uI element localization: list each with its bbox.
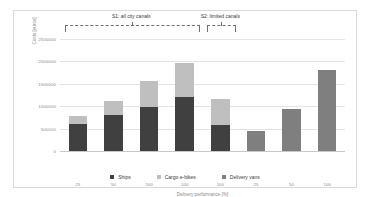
x-axis-title: Delivery performance [%] [60, 192, 345, 197]
legend-item[interactable]: Cargo e-bikes [157, 174, 196, 180]
bar-segment-cargo-e-bikes[interactable] [175, 63, 194, 97]
x-axis-tick-label: 100 [217, 182, 224, 187]
chart-figure: Costs [euros] 05000001000000150000020000… [13, 10, 357, 188]
bar-segment-ships[interactable] [69, 124, 88, 151]
bar-segment-cargo-e-bikes[interactable] [140, 81, 159, 107]
bar-segment-ships[interactable] [175, 97, 194, 151]
bar-column[interactable] [318, 70, 337, 151]
x-axis-tick-label: 50 [289, 182, 294, 187]
bar-column[interactable] [140, 81, 159, 151]
scenario-bracket-s1 [65, 25, 200, 32]
y-axis-tick-label: 500000 [41, 126, 56, 131]
bar-segment-cargo-e-bikes[interactable] [211, 99, 230, 126]
bar-segment-ships[interactable] [104, 115, 123, 151]
bar-segment-cargo-e-bikes[interactable] [69, 116, 88, 124]
legend-label: Delivery vans [230, 174, 260, 180]
legend-swatch-icon [157, 175, 161, 179]
bar-column[interactable] [247, 131, 266, 151]
x-axis-tick-label: 50 [111, 182, 116, 187]
bar-column[interactable] [211, 99, 230, 151]
y-axis-title: Costs [euros] [32, 1, 37, 61]
bar-column[interactable] [104, 101, 123, 151]
scenario-label-s1: S1: all city canals [112, 13, 151, 19]
x-axis-tick-label: 100 [145, 182, 152, 187]
y-axis-tick-label: 2500000 [38, 37, 56, 42]
x-axis-tick-label: 25 [75, 182, 80, 187]
y-axis-tick-label: 1500000 [38, 81, 56, 86]
bar-column[interactable] [69, 116, 88, 151]
legend-item[interactable]: Delivery vans [222, 174, 260, 180]
bar-series-group [60, 39, 345, 151]
legend-swatch-icon [110, 175, 114, 179]
x-axis-tick-label: 100 [181, 182, 188, 187]
y-axis-tick-label: 0 [53, 149, 56, 154]
bracket-tick [221, 22, 222, 26]
y-axis-tick-label: 2000000 [38, 59, 56, 64]
scenario-bracket-s2 [207, 25, 236, 32]
bar-column[interactable] [282, 109, 301, 151]
chart-legend: ShipsCargo e-bikesDelivery vans [14, 174, 356, 180]
plot-area: 05000001000000150000020000002500000 2550… [60, 39, 345, 151]
x-axis-tick-label: 25 [253, 182, 258, 187]
x-axis-line [60, 151, 345, 152]
legend-label: Cargo e-bikes [165, 174, 196, 180]
bar-segment-ships[interactable] [211, 125, 230, 151]
bar-segment-delivery-vans[interactable] [247, 131, 266, 151]
x-axis-tick-label: 100 [324, 182, 331, 187]
bar-segment-ships[interactable] [140, 107, 159, 151]
bar-segment-delivery-vans[interactable] [318, 70, 337, 151]
bracket-tick [132, 22, 133, 26]
bar-segment-delivery-vans[interactable] [282, 109, 301, 151]
y-axis-tick-label: 1000000 [38, 104, 56, 109]
bar-segment-cargo-e-bikes[interactable] [104, 101, 123, 116]
legend-item[interactable]: Ships [110, 174, 131, 180]
legend-label: Ships [118, 174, 131, 180]
bar-column[interactable] [175, 63, 194, 151]
scenario-label-s2: S2: limited canals [201, 13, 240, 19]
legend-swatch-icon [222, 175, 226, 179]
